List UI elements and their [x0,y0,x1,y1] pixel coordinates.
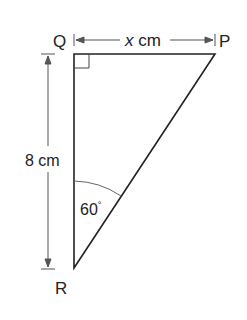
vertex-label-q: Q [53,32,66,51]
dimension-label-qp: x cm [124,31,161,50]
dimension-label-qr: 8 cm [25,152,60,169]
right-angle-marker [74,54,89,68]
angle-label-r: 60° [80,200,102,218]
vertex-label-p: P [219,32,230,51]
vertex-label-r: R [55,279,67,298]
angle-arc-r [74,181,121,196]
triangle-diagram: Q P R x cm 8 cm 60° [0,0,247,320]
triangle-pqr [74,54,215,268]
